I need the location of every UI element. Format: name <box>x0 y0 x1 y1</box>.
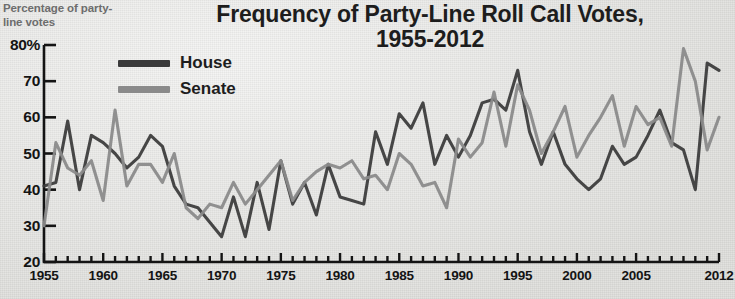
y-tick-label-80: 80% <box>0 36 40 54</box>
x-tick-label-1955: 1955 <box>21 268 67 283</box>
x-tick-label-2012: 2012 <box>696 268 735 283</box>
x-tick-label-1970: 1970 <box>199 268 245 283</box>
y-tick-label-30: 30 <box>0 217 40 235</box>
y-tick-label-70: 70 <box>0 72 40 90</box>
x-tick-label-1960: 1960 <box>80 268 126 283</box>
series-line-house <box>44 63 719 237</box>
plot-area <box>0 0 735 299</box>
x-tick-label-1985: 1985 <box>376 268 422 283</box>
y-tick-label-60: 60 <box>0 108 40 126</box>
x-tick-label-1995: 1995 <box>495 268 541 283</box>
series-line-senate <box>44 49 719 226</box>
x-tick-label-1965: 1965 <box>139 268 185 283</box>
series-group <box>44 49 719 237</box>
x-tick-label-1990: 1990 <box>435 268 481 283</box>
x-tick-label-2000: 2000 <box>554 268 600 283</box>
x-tick-label-1975: 1975 <box>258 268 304 283</box>
y-tick-label-50: 50 <box>0 145 40 163</box>
x-tick-label-2005: 2005 <box>613 268 659 283</box>
y-tick-label-40: 40 <box>0 181 40 199</box>
party-line-votes-chart: Percentage of party-line votes Frequency… <box>0 0 735 299</box>
x-tick-label-1980: 1980 <box>317 268 363 283</box>
